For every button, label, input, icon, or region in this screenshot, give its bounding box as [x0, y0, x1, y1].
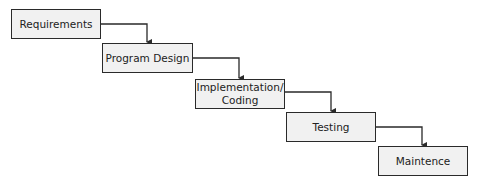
arrow-design-to-implementation — [193, 58, 239, 78]
step-label: Maintence — [396, 155, 451, 168]
step-label: Requirements — [20, 18, 93, 31]
step-label: Program Design — [106, 52, 190, 65]
step-testing: Testing — [286, 112, 376, 142]
step-label: Testing — [313, 121, 350, 134]
arrow-implementation-to-testing — [284, 92, 331, 111]
step-requirements: Requirements — [11, 9, 101, 39]
step-maintence: Maintence — [378, 146, 468, 176]
arrow-testing-to-maintence — [375, 127, 422, 145]
arrow-requirements-to-design — [100, 24, 147, 42]
step-implementation-coding: Implementation/ Coding — [195, 79, 285, 109]
step-label: Implementation/ Coding — [197, 81, 284, 107]
step-program-design: Program Design — [102, 43, 193, 73]
